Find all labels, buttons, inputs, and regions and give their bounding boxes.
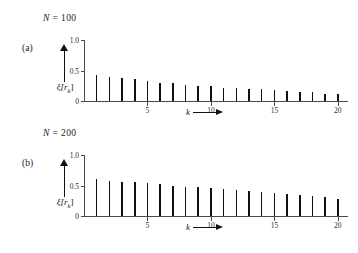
bar: [274, 193, 276, 216]
bar: [324, 197, 326, 216]
x-tick-label: 20: [334, 106, 342, 115]
bar: [134, 79, 136, 101]
bar: [286, 91, 288, 101]
condition-label-a: N = 100: [43, 13, 77, 23]
y-tick-label: 1.0: [70, 151, 79, 160]
bar: [159, 184, 161, 216]
bar: [312, 196, 314, 216]
y-axis-label-b: ξ[rk]: [48, 197, 82, 209]
bar: [210, 188, 212, 216]
y-tick-1: [81, 155, 85, 156]
bar: [248, 191, 250, 216]
y-axis-label-close-a: ]: [70, 82, 73, 92]
x-axis-arrow-icon-a: [193, 109, 223, 116]
bar: [299, 195, 301, 216]
x-tick-label: 5: [146, 221, 150, 230]
bar: [159, 83, 161, 101]
y-axis-label-a: ξ[rk]: [48, 82, 82, 94]
bar: [109, 181, 111, 216]
x-tick-label: 5: [146, 106, 150, 115]
bar: [210, 86, 212, 101]
y-tick-label: 1.0: [70, 36, 79, 45]
x-axis-arrow-icon-b: [193, 224, 223, 231]
y-axis-label-text-a: ξ[r: [57, 82, 68, 92]
y-axis-label-text-b: ξ[r: [57, 197, 68, 207]
y-tick-label: 0: [75, 212, 79, 221]
x-tick-label: 15: [271, 106, 279, 115]
bar: [172, 186, 174, 217]
x-tick-label: 15: [271, 221, 279, 230]
bar: [121, 78, 123, 101]
bar: [299, 92, 301, 101]
y-axis-arrow-b: [58, 159, 72, 197]
x-axis-label-b: k: [186, 222, 223, 232]
y-axis-arrowshaft-b: [64, 165, 65, 197]
panel-tag-a: (a): [22, 43, 33, 53]
bar: [109, 77, 111, 101]
y-tick-1: [81, 186, 85, 187]
bar: [121, 182, 123, 216]
y-tick-0: [81, 71, 85, 72]
bar: [172, 83, 174, 101]
y-tick-label: 0: [75, 97, 79, 106]
x-axis-line-b: [84, 216, 348, 217]
x-axis-label-text-a: k: [186, 107, 190, 117]
bar: [261, 89, 263, 101]
bar: [147, 183, 149, 216]
y-tick-0: [81, 40, 85, 41]
bar: [337, 94, 339, 101]
bar: [96, 179, 98, 216]
bar: [197, 187, 199, 216]
bar: [185, 187, 187, 216]
x-axis-label-a: k: [186, 107, 223, 117]
y-tick-label: 0.5: [70, 181, 79, 190]
bar: [236, 88, 238, 101]
condition-value-b: 200: [61, 128, 76, 138]
y-tick-1: [81, 216, 85, 217]
panel-tag-b: (b): [22, 158, 33, 168]
condition-symbol-b: N: [43, 128, 50, 138]
bar: [312, 92, 314, 101]
bar: [223, 88, 225, 101]
bar: [337, 199, 339, 216]
x-axis-label-text-b: k: [186, 222, 190, 232]
plot-area-a: 00.51.05101520: [84, 40, 348, 102]
bar: [197, 86, 199, 101]
x-tick-label: 20: [334, 221, 342, 230]
bar: [185, 85, 187, 101]
x-axis-line-a: [84, 101, 348, 102]
y-tick-0: [81, 101, 85, 102]
bar: [96, 75, 98, 101]
bar: [134, 182, 136, 216]
condition-symbol-a: N: [43, 13, 50, 23]
bar: [324, 94, 326, 101]
bar: [223, 189, 225, 216]
condition-eq-a: =: [50, 13, 61, 23]
y-axis-arrowshaft-a: [64, 50, 65, 82]
bar: [236, 190, 238, 216]
condition-label-b: N = 200: [43, 128, 77, 138]
y-axis-arrow-a: [58, 44, 72, 82]
condition-value-a: 100: [61, 13, 76, 23]
bar: [274, 90, 276, 101]
condition-eq-b: =: [50, 128, 61, 138]
plot-area-b: 00.51.05101520: [84, 155, 348, 217]
bar: [261, 192, 263, 216]
bar: [286, 194, 288, 216]
bar: [147, 81, 149, 101]
bar: [248, 89, 250, 101]
y-axis-label-close-b: ]: [70, 197, 73, 207]
y-tick-label: 0.5: [70, 66, 79, 75]
